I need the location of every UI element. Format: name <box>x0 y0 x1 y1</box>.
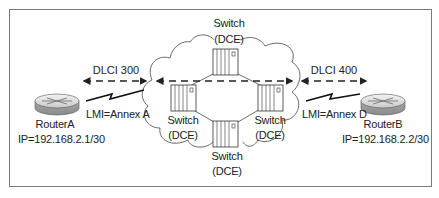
switch-left-label-1: Switch <box>167 114 198 126</box>
router-a-icon <box>35 94 79 115</box>
switch-top-label-2: (DCE) <box>214 33 244 45</box>
lmi-annex-a-label: LMI=Annex A <box>86 108 150 120</box>
switch-icon <box>213 121 238 147</box>
switch-icon <box>258 85 283 111</box>
router-b-ip: IP=192.168.2.2/30 <box>342 133 429 145</box>
frame-relay-diagram: Switch (DCE) Switch (DCE) Switch (DCE) S… <box>0 0 439 198</box>
switch-top-label-1: Switch <box>213 17 244 29</box>
switch-right-label-1: Switch <box>254 114 285 126</box>
switch-bottom-label-2: (DCE) <box>212 165 242 177</box>
router-a-name: RouterA <box>36 118 76 130</box>
dlci-300-label: DLCI 300 <box>93 64 139 76</box>
switch-icon <box>213 49 238 75</box>
router-b-name: RouterB <box>364 118 403 130</box>
router-b-icon <box>361 94 405 115</box>
switch-left-label-2: (DCE) <box>168 129 198 141</box>
dlci-400-label: DLCI 400 <box>311 64 357 76</box>
router-a-ip: IP=192.168.2.1/30 <box>18 133 105 145</box>
switch-icon <box>171 85 196 111</box>
switch-right-label-2: (DCE) <box>255 129 285 141</box>
lmi-annex-d-label: LMI=Annex D <box>302 108 367 120</box>
switch-bottom-label-1: Switch <box>211 150 242 162</box>
